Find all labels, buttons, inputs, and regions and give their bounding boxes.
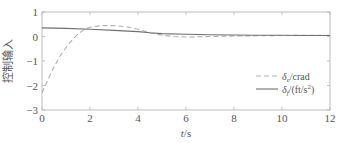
x-tick-label: 8	[231, 112, 237, 124]
line-chart: 02468101210−1−2−3 δe/cradδf/(ft/s2) t/s …	[0, 0, 343, 143]
x-tick-label: 6	[183, 112, 189, 124]
x-tick-label: 12	[325, 112, 336, 124]
x-tick-label: 4	[135, 112, 141, 124]
series-line-1	[42, 28, 330, 36]
legend-label-0: δe/crad	[282, 71, 310, 84]
y-axis-label: 控制输入	[1, 39, 14, 83]
legend-label-1: δf/(ft/s2)	[282, 83, 314, 97]
y-tick-label: −1	[26, 55, 38, 67]
x-tick-label: 2	[87, 112, 93, 124]
x-tick-label: 0	[39, 112, 45, 124]
y-tick-label: −2	[26, 80, 38, 92]
legend: δe/cradδf/(ft/s2)	[256, 71, 314, 97]
y-tick-label: 1	[33, 6, 39, 18]
x-tick-label: 10	[277, 112, 289, 124]
axis-ticks: 02468101210−1−2−3	[26, 6, 335, 124]
y-tick-label: 0	[33, 31, 39, 43]
y-tick-label: −3	[26, 104, 38, 116]
x-axis-label: t/s	[181, 127, 191, 139]
